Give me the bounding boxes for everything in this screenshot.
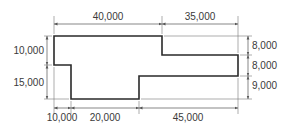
label-right-2: 8,000 — [252, 60, 277, 71]
label-top-2: 35,000 — [185, 11, 216, 22]
label-bottom-3: 45,000 — [173, 112, 204, 123]
label-bottom-1: 10,000 — [47, 112, 78, 123]
label-right-3: 9,000 — [252, 80, 277, 91]
floor-plan-outline — [54, 36, 238, 99]
label-bottom-2: 20,000 — [90, 112, 121, 123]
label-right-1: 8,000 — [252, 40, 277, 51]
floor-plan-diagram: 40,000 35,000 10,000 15,000 8,000 8,000 … — [0, 0, 291, 131]
label-left-1: 10,000 — [13, 45, 44, 56]
label-top-1: 40,000 — [93, 11, 124, 22]
label-left-2: 15,000 — [13, 77, 44, 88]
